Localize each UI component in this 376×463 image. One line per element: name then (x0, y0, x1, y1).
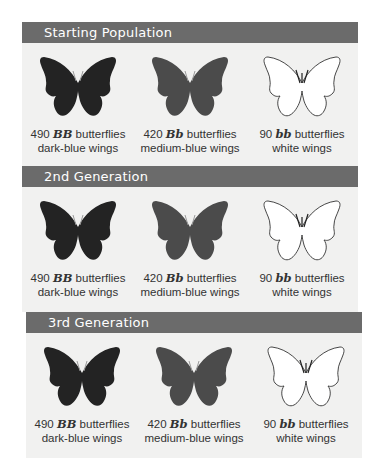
group-BB: 490 BB butterfliesdark-blue wings (26, 333, 138, 445)
group-BB: 490 BB butterfliesdark-blue wings (22, 187, 134, 299)
butterfly-medium-icon (150, 197, 230, 263)
group-bb: 90 bb butterflieswhite wings (250, 333, 362, 445)
group-caption: 490 BB butterfliesdark-blue wings (26, 417, 138, 445)
group-Bb: 420 Bb butterfliesmedium-blue wings (134, 187, 246, 299)
section-starting-population: Starting Population 490 BB butterfliesda… (22, 22, 358, 168)
butterfly-dark-icon (38, 197, 118, 263)
group-caption: 490 BB butterfliesdark-blue wings (22, 271, 134, 299)
section-title: Starting Population (22, 22, 358, 43)
genotype-row: 490 BB butterfliesdark-blue wings 420 Bb… (22, 43, 358, 168)
section-3rd-generation: 3rd Generation 490 BB butterfliesdark-bl… (26, 312, 362, 458)
genotype-row: 490 BB butterfliesdark-blue wings 420 Bb… (22, 187, 358, 312)
butterfly-dark-icon (38, 53, 118, 119)
butterfly-medium-icon (154, 343, 234, 409)
butterfly-white-icon (266, 343, 346, 409)
group-caption: 90 bb butterflieswhite wings (250, 417, 362, 445)
section-2nd-generation: 2nd Generation 490 BB butterfliesdark-bl… (22, 166, 358, 312)
group-Bb: 420 Bb butterfliesmedium-blue wings (134, 43, 246, 155)
group-caption: 490 BB butterfliesdark-blue wings (22, 127, 134, 155)
group-caption: 90 bb butterflieswhite wings (246, 127, 358, 155)
group-caption: 420 Bb butterfliesmedium-blue wings (134, 271, 246, 299)
butterfly-white-icon (262, 197, 342, 263)
group-BB: 490 BB butterfliesdark-blue wings (22, 43, 134, 155)
section-title: 3rd Generation (26, 312, 362, 333)
group-caption: 420 Bb butterfliesmedium-blue wings (138, 417, 250, 445)
group-caption: 90 bb butterflieswhite wings (246, 271, 358, 299)
butterfly-medium-icon (150, 53, 230, 119)
group-bb: 90 bb butterflieswhite wings (246, 43, 358, 155)
group-Bb: 420 Bb butterfliesmedium-blue wings (138, 333, 250, 445)
group-caption: 420 Bb butterfliesmedium-blue wings (134, 127, 246, 155)
section-title: 2nd Generation (22, 166, 358, 187)
butterfly-dark-icon (42, 343, 122, 409)
butterfly-white-icon (262, 53, 342, 119)
group-bb: 90 bb butterflieswhite wings (246, 187, 358, 299)
genotype-row: 490 BB butterfliesdark-blue wings 420 Bb… (26, 333, 362, 458)
